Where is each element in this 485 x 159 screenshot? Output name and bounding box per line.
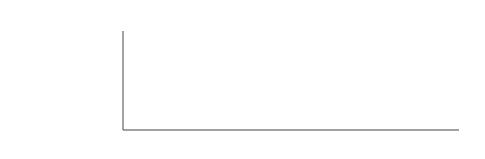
histogram-plot bbox=[0, 0, 485, 159]
